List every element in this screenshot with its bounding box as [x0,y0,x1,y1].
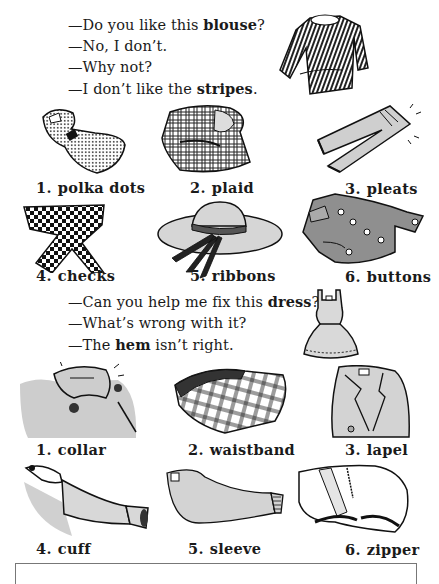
polka-dot-dress-illustration [35,105,130,175]
jacket-lapel-illustration [325,365,415,440]
sweater-sleeve-illustration [165,463,285,541]
label-polka-dots: 1.polka dots [36,179,145,196]
dialog-line: —Do you like this blouse? [68,14,265,36]
label-checks: 4.checks [36,267,115,284]
pleated-pants-illustration [310,100,425,175]
plaid-robe-illustration [160,102,255,177]
shirt-cuff-illustration [22,462,152,540]
checked-scarf-illustration [22,203,117,273]
plaid-skirt-waistband-illustration [165,365,290,435]
label-plaid: 2.plaid [190,179,254,196]
label-collar: 1.collar [36,441,106,458]
dialog-line: —Can you help me fix this dress? [68,291,319,313]
page-footer-box [15,563,417,584]
striped-blouse-illustration [270,8,390,100]
dialog-dress: —Can you help me fix this dress? —What’s… [68,291,319,356]
label-lapel: 3.lapel [345,441,408,458]
dialog-line: —The hem isn’t right. [68,334,319,356]
buttoned-jacket-illustration [295,192,425,272]
label-sleeve: 5.sleeve [188,540,261,557]
label-ribbons: 5.ribbons [190,267,276,284]
label-zipper: 6.zipper [345,541,419,558]
dialog-line: —No, I don’t. [68,36,265,57]
label-buttons: 6.buttons [345,268,431,285]
dress-illustration [300,288,360,363]
pants-zipper-illustration [295,462,420,537]
dialog-line: —I don’t like the stripes. [68,78,265,100]
label-waistband: 2.waistband [188,441,295,458]
dialog-blouse: —Do you like this blouse? —No, I don’t. … [68,14,265,100]
label-cuff: 4.cuff [36,540,91,557]
dialog-line: —Why not? [68,57,265,78]
dialog-line: —What’s wrong with it? [68,313,319,334]
coat-collar-illustration [18,362,138,440]
